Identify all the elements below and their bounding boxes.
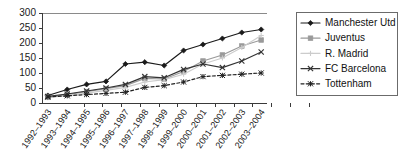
data-point-marker xyxy=(162,83,167,88)
data-point-marker xyxy=(259,33,264,38)
data-point-marker xyxy=(84,92,89,97)
data-point-marker xyxy=(220,36,225,41)
data-point-marker xyxy=(84,82,89,87)
data-point-marker xyxy=(239,72,244,77)
x-axis-tick-labels: 1992–19931993–19941994–19951995–19961996… xyxy=(19,107,266,150)
chart-canvas: 050100150200250300 1992–19931993–1994199… xyxy=(0,0,400,158)
data-point-marker xyxy=(181,79,186,84)
data-point-marker xyxy=(259,70,264,75)
series-fc-barcelona xyxy=(45,49,264,99)
data-point-marker xyxy=(200,42,205,47)
series-line xyxy=(48,36,261,98)
legend-label: Juventus xyxy=(325,32,365,43)
data-point-marker xyxy=(259,49,264,54)
y-tick-label: 50 xyxy=(25,82,37,93)
data-point-marker xyxy=(45,94,50,99)
data-point-marker xyxy=(220,73,225,78)
series-juventus xyxy=(46,38,264,100)
data-point-marker xyxy=(259,38,264,43)
plot-frame xyxy=(42,13,267,103)
legend-label: R. Madrid xyxy=(325,48,368,59)
y-tick-label: 300 xyxy=(19,7,36,18)
y-tick-label: 200 xyxy=(19,37,36,48)
legend-label: Manchester Utd xyxy=(325,17,396,28)
y-tick-label: 150 xyxy=(19,52,36,63)
data-point-marker xyxy=(308,81,313,86)
data-point-marker xyxy=(103,91,108,96)
data-point-marker xyxy=(308,36,313,41)
y-axis-tick-labels: 050100150200250300 xyxy=(19,7,36,108)
line-chart: 050100150200250300 1992–19931993–1994199… xyxy=(0,0,400,158)
y-tick-label: 0 xyxy=(30,97,36,108)
data-point-marker xyxy=(123,90,128,95)
legend-label: FC Barcelona xyxy=(325,63,387,74)
data-point-marker xyxy=(65,87,70,92)
data-point-marker xyxy=(239,30,244,35)
y-tick-label: 250 xyxy=(19,22,36,33)
data-point-marker xyxy=(259,27,264,32)
y-tick-label: 100 xyxy=(19,67,36,78)
series-r-madrid xyxy=(45,33,264,100)
data-series-group xyxy=(45,27,264,100)
data-point-marker xyxy=(142,85,147,90)
series-line xyxy=(48,52,261,96)
series-line xyxy=(48,40,261,97)
data-point-marker xyxy=(65,93,70,98)
series-tottenham xyxy=(45,70,264,99)
series-manchester-utd xyxy=(45,27,264,98)
legend-label: Tottenham xyxy=(325,78,372,89)
data-point-marker xyxy=(142,60,147,65)
series-line xyxy=(48,30,261,96)
chart-legend: Manchester UtdJuventusR. MadridFC Barcel… xyxy=(296,12,397,95)
x-axis-tick-marks xyxy=(84,103,309,107)
data-point-marker xyxy=(200,74,205,79)
